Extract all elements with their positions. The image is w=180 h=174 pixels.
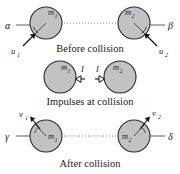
impulse-label-left: I (80, 64, 85, 74)
body-label-m2-before: m (125, 7, 131, 17)
body-label-m1-impulse: m (61, 62, 67, 72)
collision-diagram: α β m 1 m 2 u 1 u 2 Before collision (0, 0, 180, 174)
velocity-arrow-u2 (147, 36, 157, 46)
angle-label-gamma: γ (5, 131, 10, 142)
caption-before-collision: Before collision (56, 43, 124, 54)
body-label-m1-after: m (48, 131, 54, 141)
body-m1-impulse (44, 61, 76, 93)
velocity-sub-v1: 1 (25, 115, 28, 121)
panel-impulses-at-collision: I I m 1 m 2 Impulses at collision (44, 61, 136, 107)
velocity-sub-u1: 1 (17, 52, 20, 58)
body-sub-m2-impulse: 2 (120, 68, 123, 74)
body-m2-impulse (104, 61, 136, 93)
velocity-arrowhead-v2 (145, 116, 150, 122)
body-sub-m1-before: 1 (55, 13, 58, 19)
velocity-label-v1: v (19, 109, 23, 119)
body-label-m2-after: m (122, 131, 128, 141)
panel-after-collision: γ δ m 1 m 2 v 1 v 2 After collision (5, 108, 173, 169)
velocity-label-v2: v (152, 108, 156, 118)
body-label-m1-before: m (48, 7, 54, 17)
body-sub-m2-before: 2 (132, 13, 135, 19)
caption-after-collision: After collision (60, 158, 122, 169)
caption-impulses-at-collision: Impulses at collision (47, 96, 135, 107)
diagram-canvas: α β m 1 m 2 u 1 u 2 Before collision (0, 0, 180, 174)
velocity-label-u2: u (159, 46, 163, 56)
impulse-label-right: I (95, 64, 100, 74)
velocity-arrowhead-v1 (30, 116, 35, 122)
velocity-sub-u2: 2 (165, 52, 168, 58)
body-label-m2-impulse: m (113, 62, 119, 72)
panel-before-collision: α β m 1 m 2 u 1 u 2 Before collision (5, 7, 173, 58)
velocity-label-u1: u (11, 46, 15, 56)
angle-label-alpha: α (5, 20, 11, 31)
velocity-arrow-u1 (23, 36, 33, 46)
body-sub-m1-impulse: 1 (68, 68, 71, 74)
body-sub-m2-after: 2 (129, 137, 132, 143)
velocity-sub-v2: 2 (158, 114, 161, 120)
angle-label-delta: δ (168, 131, 173, 142)
body-sub-m1-after: 1 (55, 137, 58, 143)
angle-label-beta: β (167, 20, 173, 31)
